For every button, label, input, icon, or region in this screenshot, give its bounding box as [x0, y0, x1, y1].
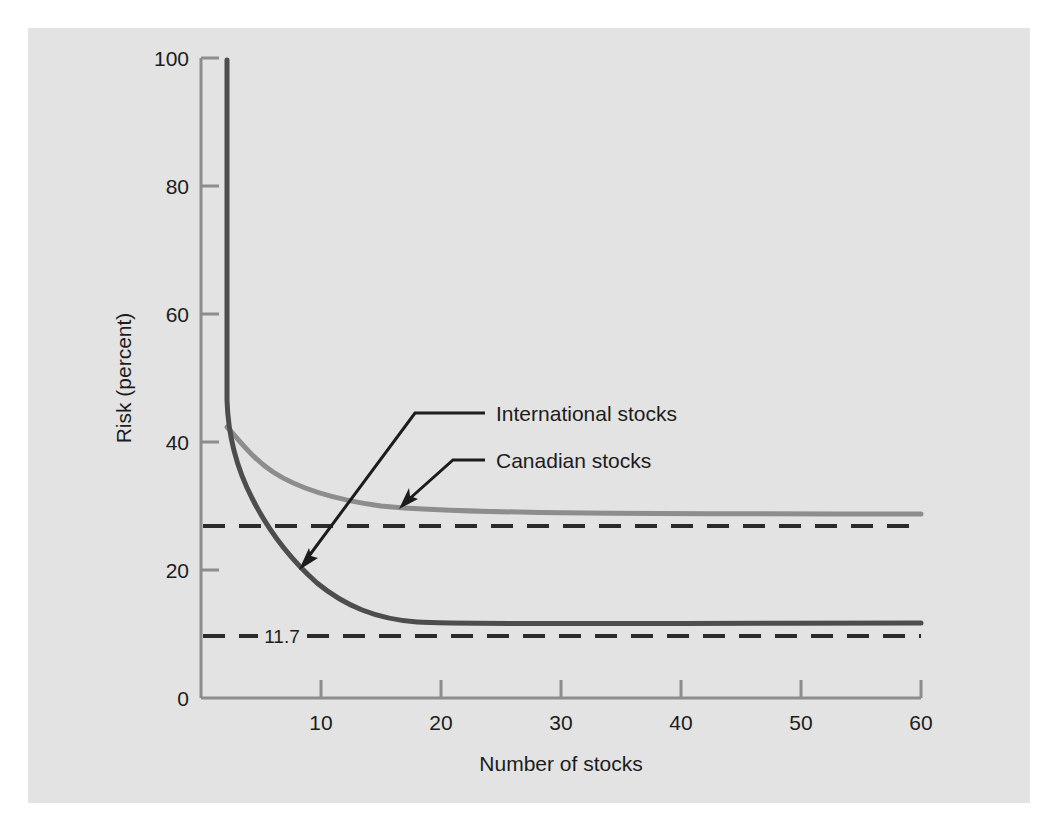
- figure-root: 0 20 40 60 80 100 10 20 30 40 50 60 Numb…: [0, 0, 1057, 825]
- x-axis-ticks: [321, 680, 921, 698]
- x-tick-label-60: 60: [909, 711, 932, 734]
- y-tick-label-80: 80: [166, 175, 189, 198]
- y-tick-labels: 0 20 40 60 80 100: [154, 47, 189, 710]
- x-tick-label-30: 30: [549, 711, 572, 734]
- international-stocks-arrowhead: [299, 548, 318, 570]
- y-axis-title: Risk (percent): [112, 313, 135, 444]
- x-tick-label-10: 10: [309, 711, 332, 734]
- risk-diversification-chart: 0 20 40 60 80 100 10 20 30 40 50 60 Numb…: [0, 0, 1057, 825]
- y-tick-label-60: 60: [166, 303, 189, 326]
- canadian-stocks-label: Canadian stocks: [496, 449, 651, 472]
- international-stocks-label: International stocks: [496, 402, 677, 425]
- x-tick-labels: 10 20 30 40 50 60: [309, 711, 932, 734]
- international-stocks-curve: [227, 60, 921, 624]
- axis-group: [201, 58, 921, 698]
- y-axis-ticks: [201, 58, 219, 570]
- canadian-stocks-leader-line: [407, 460, 485, 501]
- x-tick-label-40: 40: [669, 711, 692, 734]
- x-axis-title: Number of stocks: [479, 752, 642, 775]
- y-tick-label-100: 100: [154, 47, 189, 70]
- x-tick-label-20: 20: [429, 711, 452, 734]
- y-tick-label-20: 20: [166, 559, 189, 582]
- canadian-stocks-callout: Canadian stocks: [399, 449, 651, 509]
- x-tick-label-50: 50: [789, 711, 812, 734]
- y-tick-label-0: 0: [177, 687, 189, 710]
- y-tick-label-40: 40: [166, 431, 189, 454]
- international-stocks-callout: International stocks: [299, 402, 677, 570]
- international-stocks-leader-line: [306, 413, 485, 560]
- asymptote-value-label: 11.7: [264, 626, 300, 647]
